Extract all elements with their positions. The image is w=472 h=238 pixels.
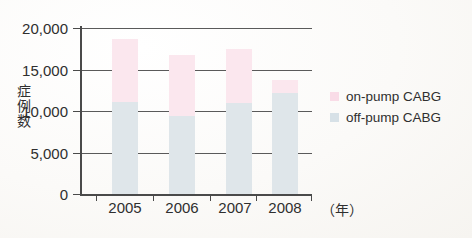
y-tick-15000 [73, 70, 81, 71]
y-tick-label-15000: 15,000 [2, 62, 68, 79]
x-axis-unit-label: （年） [312, 199, 372, 219]
x-axis-line [80, 194, 312, 196]
legend-swatch-on-pump-icon [330, 92, 339, 101]
legend-item-off-pump: off-pump CABG [330, 107, 441, 128]
y-tick-20000 [73, 28, 81, 29]
bar-group-2008 [272, 80, 298, 194]
y-tick-10000 [73, 111, 81, 112]
y-axis-title: 症例数 [14, 84, 31, 129]
y-tick-5000 [73, 153, 81, 154]
legend-label-on-pump: on-pump CABG [346, 89, 441, 104]
bar-segment-off-pump-2006 [169, 116, 195, 194]
y-tick-label-20000: 20,000 [2, 20, 68, 37]
x-tick-label-2006: 2006 [155, 199, 209, 216]
bar-segment-off-pump-2008 [272, 93, 298, 194]
bar-group-2005 [112, 39, 138, 194]
y-tick-0 [73, 194, 81, 195]
bar-segment-on-pump-2008 [272, 80, 298, 93]
gridline-20000 [80, 28, 312, 29]
bar-segment-on-pump-2005 [112, 39, 138, 102]
y-tick-label-10000: 10,000 [2, 103, 68, 120]
bar-segment-on-pump-2007 [226, 49, 252, 104]
bar-group-2007 [226, 49, 252, 194]
y-tick-label-0: 0 [2, 186, 68, 203]
y-tick-label-5000: 5,000 [2, 145, 68, 162]
legend-item-on-pump: on-pump CABG [330, 86, 441, 107]
stacked-bar-chart: 20,000 15,000 10,000 5,000 0 症例数 2005 20… [0, 0, 472, 238]
legend-swatch-off-pump-icon [330, 113, 339, 122]
bar-segment-off-pump-2007 [226, 103, 252, 194]
x-tick-label-2005: 2005 [98, 199, 152, 216]
bar-segment-off-pump-2005 [112, 102, 138, 194]
bar-segment-on-pump-2006 [169, 55, 195, 116]
chart-legend: on-pump CABG off-pump CABG [330, 86, 441, 128]
bar-group-2006 [169, 55, 195, 194]
x-tick-label-2008: 2008 [258, 199, 312, 216]
legend-label-off-pump: off-pump CABG [346, 110, 441, 125]
x-tick-label-2007: 2007 [208, 199, 262, 216]
